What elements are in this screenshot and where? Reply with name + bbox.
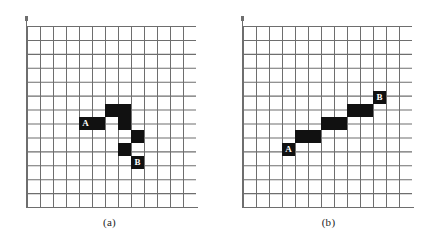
horizontal-axis-b bbox=[242, 207, 414, 208]
grid-cell-filled bbox=[334, 117, 347, 130]
grid-cell-filled bbox=[321, 117, 334, 130]
figure-pair: AB (a) AB (b) bbox=[0, 0, 439, 250]
plot-area-a: AB bbox=[26, 16, 196, 212]
caption-a: (a) bbox=[0, 216, 219, 228]
grid-wrap-b: AB bbox=[243, 26, 412, 195]
grid-cell-filled bbox=[308, 130, 321, 143]
grid-cell-filled bbox=[105, 104, 118, 117]
axis-top-tick-icon bbox=[25, 16, 28, 21]
grid-cell-filled bbox=[131, 130, 144, 143]
filled-cells-b: AB bbox=[243, 26, 412, 195]
grid-cell-filled bbox=[118, 143, 131, 156]
caption-b: (b) bbox=[219, 216, 438, 228]
grid-cell-filled bbox=[295, 130, 308, 143]
cell-label-a: A bbox=[79, 117, 92, 130]
grid-cell-filled bbox=[347, 104, 360, 117]
cell-label-b: B bbox=[131, 156, 144, 169]
plot-area-b: AB bbox=[242, 16, 412, 212]
grid-cell-filled bbox=[118, 117, 131, 130]
grid-cell-filled bbox=[92, 117, 105, 130]
cell-label-b: B bbox=[373, 91, 386, 104]
figure-b: AB (b) bbox=[219, 0, 438, 250]
grid-wrap-a: AB bbox=[27, 26, 196, 195]
filled-cells-a: AB bbox=[27, 26, 196, 195]
cell-label-a: A bbox=[282, 143, 295, 156]
grid-cell-filled bbox=[360, 104, 373, 117]
axis-top-tick-icon bbox=[241, 16, 244, 21]
grid-cell-filled bbox=[118, 104, 131, 117]
figure-a: AB (a) bbox=[0, 0, 219, 250]
horizontal-axis-a bbox=[26, 207, 198, 208]
